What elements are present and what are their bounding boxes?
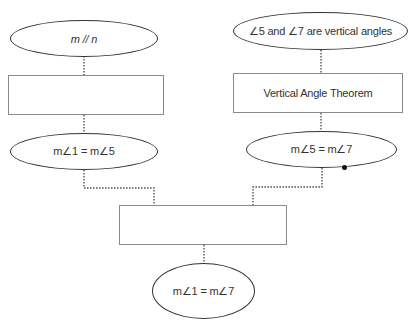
node-text: ∠5 and ∠7 are vertical angles (249, 25, 392, 38)
reason-box-final-blank[interactable] (119, 205, 287, 245)
statement-angle5-equals-angle7: m∠5 = m∠7 (246, 131, 397, 168)
node-text: m∠5 = m∠7 (291, 143, 352, 156)
reason-box-left-blank[interactable] (8, 75, 164, 115)
statement-angle1-equals-angle5: m∠1 = m∠5 (10, 133, 158, 170)
conclusion-angle1-equals-angle7: m∠1 = m∠7 (152, 263, 255, 319)
node-text: Vertical Angle Theorem (263, 87, 372, 99)
node-text: m∠1 = m∠7 (173, 285, 234, 298)
node-text: m // n (71, 33, 97, 45)
marker-dot (342, 165, 347, 170)
given-m-parallel-n: m // n (10, 20, 158, 57)
node-text: m∠1 = m∠5 (53, 145, 114, 158)
reason-box-vertical-angle-theorem: Vertical Angle Theorem (233, 73, 403, 113)
given-vertical-angles: ∠5 and ∠7 are vertical angles (233, 12, 408, 50)
